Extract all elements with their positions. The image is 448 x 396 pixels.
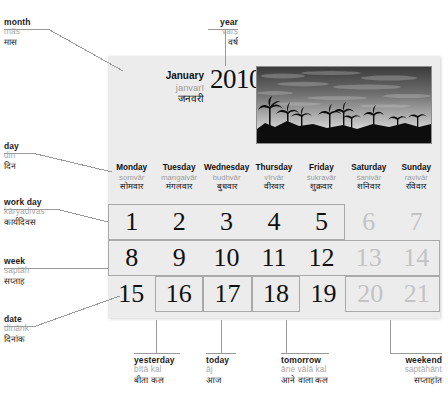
date-cell-weekend[interactable]: 13 <box>345 240 392 276</box>
annotation-today-leader <box>221 320 222 353</box>
month-name-translit: janvarī <box>124 82 204 93</box>
annotation-weekend-leader <box>390 320 391 353</box>
date-cell[interactable]: 1 <box>108 204 155 240</box>
date-cell-weekend[interactable]: 21 <box>393 276 440 312</box>
weekday-label-hindi: मंगलवार <box>155 182 202 192</box>
date-cell-weekend[interactable]: 7 <box>393 204 440 240</box>
weekday-monday: Monday somvār सोमवार <box>108 163 155 192</box>
weekday-label-hindi: रविवार <box>393 182 440 192</box>
date-cell-tomorrow[interactable]: 18 <box>252 276 301 312</box>
date-cell-weekend[interactable]: 20 <box>347 276 394 312</box>
annotation-yesterday-hindi: बीता कल <box>134 375 175 385</box>
weekday-label-en: Saturday <box>345 163 392 173</box>
weekday-label-hindi: वीरवार <box>250 182 297 192</box>
weekday-wednesday: Wednesday budhvār बुधवार <box>203 163 250 192</box>
calendar-infographic: January janvarī जनवरी 2010 <box>0 0 448 396</box>
annotation-week-underline <box>4 268 108 269</box>
annotation-weekend-translit: saptāhānt <box>370 365 442 375</box>
weekday-label-en: Monday <box>108 163 155 173</box>
weekday-saturday: Saturday śanivār शनिवार <box>345 163 392 192</box>
annotation-year-leader <box>225 29 226 66</box>
annotation-year: year varṣ वर्ष <box>186 17 238 47</box>
date-row-week3: 15 16 17 18 19 20 21 <box>108 276 440 312</box>
annotation-month-hindi: मास <box>4 37 30 47</box>
annotation-work-day: work day kāryadivas कार्यदिवस <box>4 197 45 227</box>
annotation-work-day-underline <box>4 209 56 210</box>
date-cell[interactable]: 15 <box>108 276 155 312</box>
annotation-tomorrow-leader <box>286 320 287 353</box>
weekday-tuesday: Tuesday mangalvār मंगलवार <box>155 163 202 192</box>
annotation-weekend-underline <box>390 353 442 354</box>
weekday-label-en: Friday <box>298 163 345 173</box>
date-cell-today[interactable]: 17 <box>203 276 252 312</box>
annotation-date-underline <box>4 326 36 327</box>
weekday-label-en: Tuesday <box>155 163 202 173</box>
weekday-label-en: Thursday <box>250 163 297 173</box>
weekday-sunday: Sunday ravivār रविवार <box>393 163 440 192</box>
annotation-tomorrow-underline <box>281 353 329 354</box>
weekday-header-row: Monday somvār सोमवार Tuesday mangalvār म… <box>108 163 440 192</box>
date-row-week2: 8 9 10 11 12 13 14 <box>108 240 440 276</box>
annotation-yesterday: yesterday bītā kal बीता कल <box>134 355 175 385</box>
annotation-tomorrow-translit: āne vālā kal <box>281 365 328 375</box>
sunset-palm-trees-photo <box>256 66 432 144</box>
date-cell[interactable]: 11 <box>250 240 297 276</box>
annotation-date: date dinānk दिनांक <box>4 314 29 344</box>
annotation-yesterday-underline <box>134 353 180 354</box>
annotation-weekend: weekend saptāhānt सप्ताहांत <box>370 355 442 385</box>
annotation-week: week saptāh सप्ताह <box>4 256 30 286</box>
date-cell[interactable]: 19 <box>300 276 347 312</box>
weekday-label-hindi: शुक्रवार <box>298 182 345 192</box>
date-cell-weekend[interactable]: 14 <box>393 240 440 276</box>
annotation-today-hindi: आज <box>206 375 229 385</box>
weekday-friday: Friday śukravār शुक्रवार <box>298 163 345 192</box>
weekday-label-en: Wednesday <box>203 163 250 173</box>
month-heading: January janvarī जनवरी <box>124 70 204 105</box>
annotation-date-hindi: दिनांक <box>4 334 29 344</box>
weekday-label-hindi: शनिवार <box>345 182 392 192</box>
date-cell[interactable]: 10 <box>203 240 250 276</box>
weekday-thursday: Thursday vīrvār वीरवार <box>250 163 297 192</box>
annotation-year-hindi: वर्ष <box>186 37 238 47</box>
annotation-today-translit: āj <box>206 365 229 375</box>
calendar-card: January janvarī जनवरी 2010 <box>108 56 440 318</box>
date-cell-yesterday[interactable]: 16 <box>155 276 204 312</box>
date-row-week1: 1 2 3 4 5 6 7 <box>108 204 440 240</box>
annotation-month: month mās मास <box>4 17 30 47</box>
month-name-hindi: जनवरी <box>124 93 204 105</box>
date-cell[interactable]: 3 <box>203 204 250 240</box>
date-cell[interactable]: 5 <box>298 204 345 240</box>
annotation-today-underline <box>206 353 236 354</box>
date-cell-weekend[interactable]: 6 <box>345 204 392 240</box>
annotation-tomorrow-hindi: आने वाला कल <box>281 375 328 385</box>
date-cell[interactable]: 2 <box>155 204 202 240</box>
month-name-en: January <box>124 70 204 82</box>
annotation-day: day din दिन <box>4 141 19 171</box>
date-grid: 1 2 3 4 5 6 7 8 9 10 11 12 13 14 15 <box>108 204 440 312</box>
date-cell[interactable]: 8 <box>108 240 155 276</box>
annotation-yesterday-translit: bītā kal <box>134 365 175 375</box>
date-cell[interactable]: 9 <box>155 240 202 276</box>
annotation-month-underline <box>4 29 48 30</box>
weekday-label-hindi: सोमवार <box>108 182 155 192</box>
annotation-yesterday-leader <box>156 320 157 353</box>
annotation-today: today āj आज <box>206 355 229 385</box>
annotation-tomorrow: tomorrow āne vālā kal आने वाला कल <box>281 355 328 385</box>
weekday-label-hindi: बुधवार <box>203 182 250 192</box>
annotation-work-day-hindi: कार्यदिवस <box>4 217 45 227</box>
annotation-weekend-hindi: सप्ताहांत <box>370 375 442 385</box>
annotation-day-underline <box>4 153 32 154</box>
year-value: 2010 <box>210 64 262 95</box>
date-cell[interactable]: 4 <box>250 204 297 240</box>
weekday-label-en: Sunday <box>393 163 440 173</box>
annotation-year-underline <box>208 29 238 30</box>
annotation-day-hindi: दिन <box>4 161 19 171</box>
annotation-week-hindi: सप्ताह <box>4 276 30 286</box>
date-cell[interactable]: 12 <box>298 240 345 276</box>
